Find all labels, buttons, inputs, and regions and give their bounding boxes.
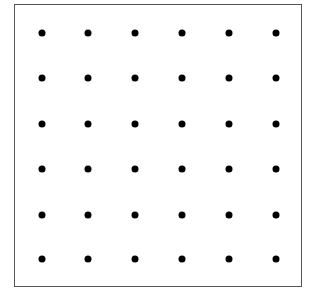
grid-dot xyxy=(132,212,139,219)
grid-dot xyxy=(179,121,186,128)
grid-dot xyxy=(85,121,92,128)
grid-dot xyxy=(273,30,280,37)
grid-dot xyxy=(132,30,139,37)
grid-dot xyxy=(39,121,46,128)
grid-dot xyxy=(132,121,139,128)
grid-dot xyxy=(132,166,139,173)
grid-dot xyxy=(179,75,186,82)
grid-dot xyxy=(39,256,46,263)
grid-dot xyxy=(273,256,280,263)
grid-frame xyxy=(14,4,302,287)
grid-dot xyxy=(132,75,139,82)
grid-dot xyxy=(273,75,280,82)
grid-dot xyxy=(85,256,92,263)
grid-dot xyxy=(39,75,46,82)
grid-dot xyxy=(179,256,186,263)
grid-dot xyxy=(273,166,280,173)
grid-dot xyxy=(39,166,46,173)
grid-dot xyxy=(179,166,186,173)
grid-dot xyxy=(39,30,46,37)
grid-dot xyxy=(226,75,233,82)
grid-dot xyxy=(85,30,92,37)
grid-dot xyxy=(179,212,186,219)
grid-dot xyxy=(85,75,92,82)
grid-dot xyxy=(85,166,92,173)
grid-dot xyxy=(226,30,233,37)
grid-dot xyxy=(85,212,92,219)
grid-dot xyxy=(273,212,280,219)
grid-dot xyxy=(179,30,186,37)
grid-dot xyxy=(39,212,46,219)
grid-dot xyxy=(226,121,233,128)
grid-dot xyxy=(226,212,233,219)
grid-dot xyxy=(226,256,233,263)
grid-dot xyxy=(132,256,139,263)
grid-dot xyxy=(226,166,233,173)
grid-dot xyxy=(273,121,280,128)
